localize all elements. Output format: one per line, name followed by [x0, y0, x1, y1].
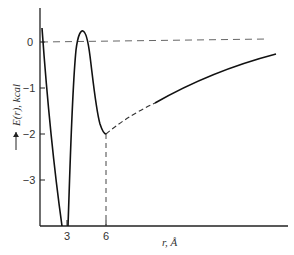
- y-tick-label: −2: [23, 128, 36, 140]
- curve-repulsive-wall: [42, 28, 62, 226]
- potential-energy-chart: 0 −1 −2 −3 3 6 r, Å E(r), kcal: [0, 0, 294, 255]
- y-tick-label: 0: [27, 36, 33, 48]
- zero-reference-line: [41, 39, 268, 42]
- x-tick-label: 6: [103, 230, 109, 242]
- curve-tail-dashed: [106, 103, 155, 134]
- curve-barrier: [68, 31, 106, 226]
- curve-tail-solid: [155, 54, 276, 103]
- x-axis-label: r, Å: [162, 236, 178, 248]
- y-tick-label: −3: [23, 174, 36, 186]
- x-tick-label: 3: [64, 230, 70, 242]
- y-axis-label-group: E(r), kcal: [10, 84, 23, 150]
- x-ticks: 3 6: [64, 220, 109, 242]
- y-tick-label: −1: [23, 82, 36, 94]
- y-ticks: 0 −1 −2 −3: [23, 36, 45, 186]
- arrowhead-icon: [13, 132, 19, 137]
- y-axis-label: E(r), kcal: [10, 84, 23, 127]
